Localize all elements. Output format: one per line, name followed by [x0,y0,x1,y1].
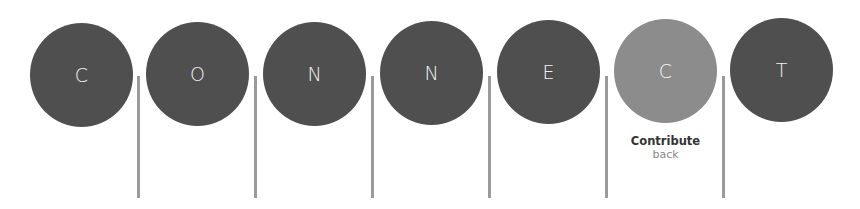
circle-letter: C [75,64,88,86]
contribute-caption: Contribute back [614,135,717,161]
circle-c-contribute: C [614,19,717,123]
divider-line [605,76,608,198]
divider-line [137,76,140,198]
circle-n-2: N [380,21,483,125]
divider-line [254,76,257,198]
circle-c: C [30,23,133,127]
circle-letter: T [776,59,788,81]
caption-title: Contribute [614,135,717,148]
circle-e: E [497,20,600,124]
circle-letter: E [542,61,554,83]
circle-letter: O [190,63,205,85]
circle-n-1: N [263,22,366,126]
caption-subtitle: back [614,148,717,161]
circle-t: T [730,18,833,122]
circle-letter: N [307,63,321,85]
divider-line [722,76,725,198]
divider-line [488,76,491,198]
circle-letter: N [424,62,438,84]
divider-line [371,76,374,198]
circle-o: O [146,22,249,126]
circle-letter: C [659,60,672,82]
